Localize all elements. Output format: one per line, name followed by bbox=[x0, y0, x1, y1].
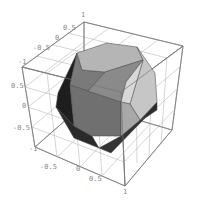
tick-label: -1 bbox=[29, 145, 37, 153]
tick-label: 0.5 bbox=[89, 175, 102, 183]
tick-label: 1 bbox=[123, 188, 127, 196]
tick-labels-left: 0.5 0 -0.5 -1 bbox=[11, 82, 37, 153]
tick-label: -1 bbox=[18, 58, 26, 66]
tick-label: 0 bbox=[55, 34, 59, 42]
polyhedron bbox=[56, 43, 157, 153]
tick-label: 0.5 bbox=[63, 24, 76, 32]
3d-plot: -1 -0.5 0 0.5 1 0.5 0 -0.5 -1 -0.5 0 0.5… bbox=[0, 0, 197, 202]
tick-label: -0.5 bbox=[13, 124, 30, 132]
tick-label: 0 bbox=[22, 102, 26, 110]
tick-label: 0.5 bbox=[11, 82, 24, 90]
tick-label: -0.5 bbox=[40, 163, 57, 171]
tick-label: 1 bbox=[81, 11, 85, 19]
tick-label: 0 bbox=[76, 165, 80, 173]
tick-label: -0.5 bbox=[33, 44, 50, 52]
